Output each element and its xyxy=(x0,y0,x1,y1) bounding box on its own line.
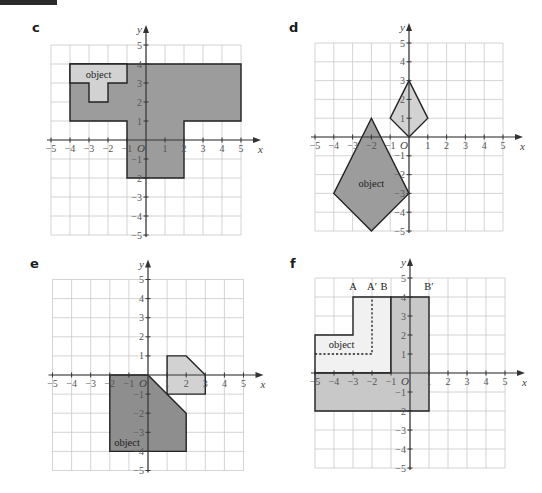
x-tick-label: −4 xyxy=(329,376,340,387)
y-tick-label: 2 xyxy=(401,330,406,341)
vertex-label: B′ xyxy=(424,281,433,292)
y-tick-label: −4 xyxy=(395,444,406,455)
y-arrow-icon xyxy=(407,258,413,266)
y-tick-label: 3 xyxy=(401,311,406,322)
y-tick-label: −3 xyxy=(395,425,406,436)
x-tick-label: 1 xyxy=(427,376,432,387)
shape-label-object: object xyxy=(329,339,355,350)
x-tick-label: 3 xyxy=(465,376,470,387)
x-tick-label: −5 xyxy=(310,376,321,387)
coordinate-grid-f: xyO−5−5−4−4−3−3−2−2−1−11122334455objectA… xyxy=(0,0,542,493)
y-tick-label: −5 xyxy=(395,463,406,474)
x-tick-label: −3 xyxy=(348,376,359,387)
x-tick-label: 2 xyxy=(446,376,451,387)
vertex-label: B xyxy=(380,281,387,292)
y-tick-label: −2 xyxy=(395,406,406,417)
y-tick-label: 4 xyxy=(401,292,406,303)
origin-label: O xyxy=(401,375,409,387)
vertex-label: A′ xyxy=(367,281,377,292)
x-tick-label: 4 xyxy=(484,376,489,387)
x-tick-label: −2 xyxy=(367,376,378,387)
y-axis-name: y xyxy=(400,256,406,268)
x-tick-label: 5 xyxy=(503,376,508,387)
x-tick-label: −1 xyxy=(386,376,397,387)
object-shape xyxy=(315,297,391,373)
x-axis-name: x xyxy=(521,376,527,388)
y-tick-label: 1 xyxy=(401,349,406,360)
vertex-label: A xyxy=(349,281,357,292)
y-tick-label: 5 xyxy=(401,273,406,284)
y-tick-label: −1 xyxy=(395,387,406,398)
